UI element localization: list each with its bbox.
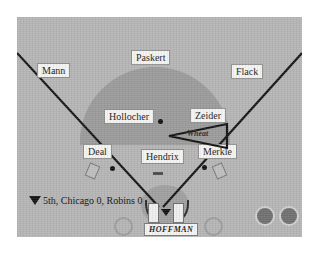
player-label-zeider[interactable]: Zeider: [190, 108, 226, 123]
home-plate: [161, 209, 171, 216]
player-label-hendrix[interactable]: Hendrix: [141, 149, 184, 164]
indicator-circle[interactable]: [279, 206, 299, 226]
pitchers-rubber: [153, 172, 163, 175]
fielder-marker-shortstop: [158, 119, 163, 124]
hit-batter-label: Wheat: [187, 129, 208, 138]
indicator-circle[interactable]: [255, 206, 275, 226]
baseball-field[interactable]: Mann Paskert Flack Hollocher Zeider Deal…: [17, 17, 302, 237]
on-deck-circle-right: [204, 217, 223, 236]
player-label-hollocher[interactable]: Hollocher: [104, 109, 154, 124]
down-triangle-icon: [29, 196, 41, 205]
status-text: 5th, Chicago 0, Robins 0: [43, 195, 142, 206]
player-label-mann[interactable]: Mann: [37, 63, 70, 78]
fielder-marker-third-baseman: [110, 166, 115, 171]
player-label-deal[interactable]: Deal: [83, 144, 112, 159]
batter-name-label[interactable]: HOFFMAN: [144, 223, 198, 236]
hit-direction-arrow: Wheat: [169, 123, 231, 149]
player-label-flack[interactable]: Flack: [231, 64, 263, 79]
on-deck-circle-left: [114, 217, 133, 236]
fielder-marker-first-baseman: [202, 165, 207, 170]
player-label-paskert[interactable]: Paskert: [131, 50, 170, 65]
batters-box-right: [173, 203, 184, 223]
game-screen: Mann Paskert Flack Hollocher Zeider Deal…: [0, 0, 318, 254]
indicator-circles[interactable]: [255, 206, 299, 226]
status-bar: 5th, Chicago 0, Robins 0: [29, 195, 142, 206]
batters-box-left: [148, 203, 159, 223]
